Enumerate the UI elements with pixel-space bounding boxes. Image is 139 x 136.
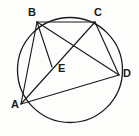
point-label-b: B — [28, 7, 36, 18]
point-label-a: A — [11, 99, 19, 110]
point-label-d: D — [123, 68, 131, 79]
point-label-c: C — [94, 7, 102, 18]
figure-canvas — [0, 0, 139, 136]
point-label-e: E — [58, 63, 65, 74]
segment-be — [37, 22, 52, 67]
circle-outline — [18, 18, 123, 123]
circle-geometry-diagram: A B C D E — [0, 0, 139, 136]
segment-ab — [21, 22, 37, 104]
segment-ad — [21, 75, 119, 104]
chord-segments — [21, 22, 119, 104]
